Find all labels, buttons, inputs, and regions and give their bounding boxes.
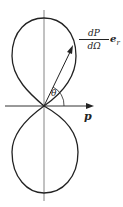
fraction-denominator: dΩ: [79, 41, 109, 51]
axis-arrowhead-icon: [86, 103, 94, 109]
radial-vector: [44, 50, 71, 106]
fraction-bar: [79, 39, 109, 40]
vector-arrowhead-icon: [67, 45, 73, 54]
fraction-numerator: dP: [79, 28, 109, 38]
radiation-pattern-diagram: θ p dP dΩ er: [0, 0, 123, 207]
power-fraction-label: dP dΩ: [79, 28, 109, 51]
lower-lobe: [12, 106, 78, 193]
theta-label: θ: [51, 88, 56, 98]
unit-vector-label: er: [110, 33, 120, 47]
unit-vector-subscript: r: [116, 39, 119, 47]
p-axis-label: p: [84, 110, 92, 123]
